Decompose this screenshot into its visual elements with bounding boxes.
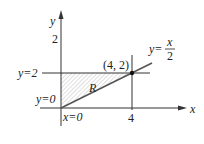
label-diag-den: 2 — [167, 49, 173, 63]
label-y-equals-2: y=2 — [17, 66, 37, 80]
y-axis-arrow-icon — [59, 10, 64, 19]
x-axis-arrow-icon — [178, 106, 187, 111]
y-tick-2: 2 — [52, 32, 58, 46]
x-axis-label: x — [189, 102, 196, 116]
label-diag-num: x — [166, 35, 173, 49]
y-axis-label: y — [49, 14, 56, 28]
point-4-2 — [130, 71, 134, 75]
label-y-equals-0: y=0 — [35, 92, 55, 106]
region-diagram: y 2 x 4 y=2 y=0 x=0 (4, 2) R y= x 2 — [0, 0, 204, 144]
x-tick-4: 4 — [128, 111, 134, 125]
label-x-equals-0: x=0 — [62, 110, 82, 124]
point-label: (4, 2) — [103, 58, 129, 72]
region-label: R — [88, 81, 97, 95]
label-diag-lhs: y= — [148, 42, 162, 56]
